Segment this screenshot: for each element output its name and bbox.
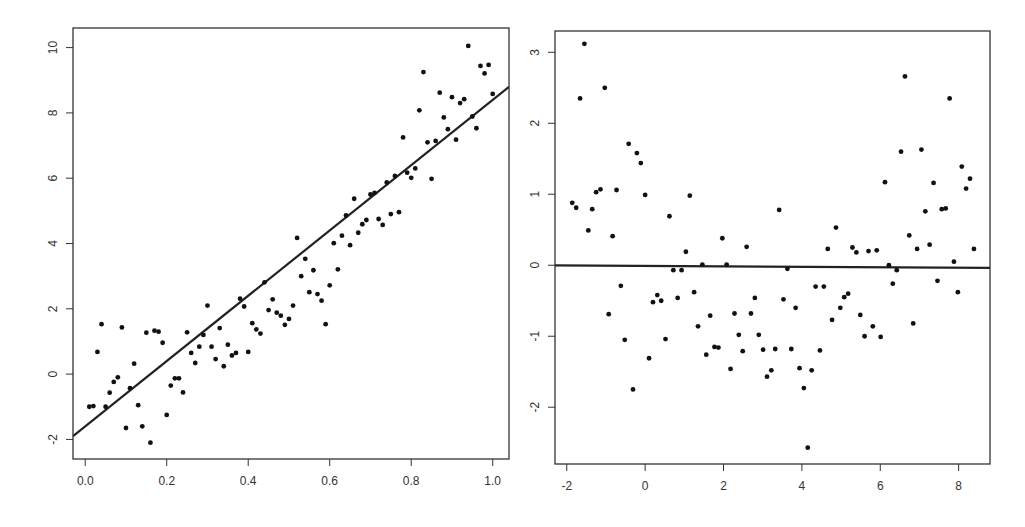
data-point xyxy=(850,245,855,250)
data-point xyxy=(478,63,483,68)
data-point xyxy=(221,364,226,369)
regression-line xyxy=(73,87,509,436)
data-point xyxy=(899,149,904,154)
data-point xyxy=(854,250,859,255)
data-point xyxy=(968,176,973,181)
y-tick-label: 8 xyxy=(46,109,60,116)
data-point xyxy=(590,207,595,212)
y-tick-label: -2 xyxy=(528,402,542,413)
plot-frame xyxy=(73,28,509,459)
data-point xyxy=(189,350,194,355)
data-point xyxy=(128,386,133,391)
data-point xyxy=(809,368,814,373)
data-point xyxy=(119,325,124,330)
data-point xyxy=(360,222,365,227)
data-point xyxy=(781,297,786,302)
data-point xyxy=(894,268,899,273)
data-point xyxy=(242,304,247,309)
data-point xyxy=(152,328,157,333)
data-point xyxy=(278,313,283,318)
data-point xyxy=(761,347,766,352)
data-point xyxy=(586,228,591,233)
data-point xyxy=(144,330,149,335)
data-point xyxy=(470,114,475,119)
data-point xyxy=(315,292,320,297)
data-point xyxy=(635,151,640,156)
data-point xyxy=(765,374,770,379)
data-point xyxy=(291,303,296,308)
data-point xyxy=(736,332,741,337)
data-point xyxy=(813,284,818,289)
data-point xyxy=(626,141,631,146)
data-point xyxy=(323,322,328,327)
data-point xyxy=(700,262,705,267)
data-point xyxy=(927,242,932,247)
data-point xyxy=(417,108,422,113)
data-point xyxy=(258,331,263,336)
data-point xyxy=(87,404,92,409)
data-point xyxy=(574,205,579,210)
data-point xyxy=(441,115,446,120)
data-point xyxy=(319,298,324,303)
data-point xyxy=(217,326,222,331)
y-tick-label: 4 xyxy=(46,240,60,247)
data-point xyxy=(376,217,381,222)
data-point xyxy=(830,318,835,323)
data-point xyxy=(140,424,145,429)
data-point xyxy=(679,268,684,273)
data-point xyxy=(295,236,300,241)
data-point xyxy=(95,350,100,355)
data-point xyxy=(964,186,969,191)
data-point xyxy=(246,350,251,355)
data-point xyxy=(704,352,709,357)
data-point xyxy=(647,356,652,361)
x-tick-label: 8 xyxy=(955,479,962,493)
data-point xyxy=(959,164,964,169)
data-point xyxy=(870,324,875,329)
data-point xyxy=(164,413,169,418)
x-tick-label: 0.0 xyxy=(77,474,94,488)
data-point xyxy=(132,361,137,366)
data-point xyxy=(883,180,888,185)
data-point xyxy=(262,280,267,285)
data-point xyxy=(931,181,936,186)
data-point xyxy=(687,193,692,198)
data-point xyxy=(340,233,345,238)
data-point xyxy=(299,274,304,279)
data-point xyxy=(874,248,879,253)
data-point xyxy=(209,344,214,349)
data-point xyxy=(752,295,757,300)
data-point xyxy=(631,387,636,392)
data-point xyxy=(103,404,108,409)
data-point xyxy=(450,95,455,100)
data-point xyxy=(91,404,96,409)
data-point xyxy=(335,267,340,272)
data-point xyxy=(659,298,664,303)
data-point xyxy=(663,337,668,342)
data-point xyxy=(858,313,863,318)
data-point xyxy=(287,317,292,322)
y-tick-label: 3 xyxy=(528,49,542,56)
data-point xyxy=(185,330,190,335)
data-point xyxy=(838,305,843,310)
data-point xyxy=(107,390,112,395)
data-point xyxy=(225,342,230,347)
data-point xyxy=(372,190,377,195)
data-point xyxy=(606,312,611,317)
data-point xyxy=(618,283,623,288)
data-point xyxy=(181,390,186,395)
data-point xyxy=(594,190,599,195)
data-point xyxy=(250,321,255,326)
data-point xyxy=(720,236,725,241)
data-point xyxy=(818,348,823,353)
data-point xyxy=(380,222,385,227)
data-point xyxy=(952,259,957,264)
data-point xyxy=(890,281,895,286)
data-point xyxy=(740,349,745,354)
data-point xyxy=(490,92,495,97)
data-point xyxy=(834,225,839,230)
data-point xyxy=(466,44,471,49)
data-point xyxy=(692,290,697,295)
y-tick-label: 6 xyxy=(46,175,60,182)
data-point xyxy=(413,166,418,171)
